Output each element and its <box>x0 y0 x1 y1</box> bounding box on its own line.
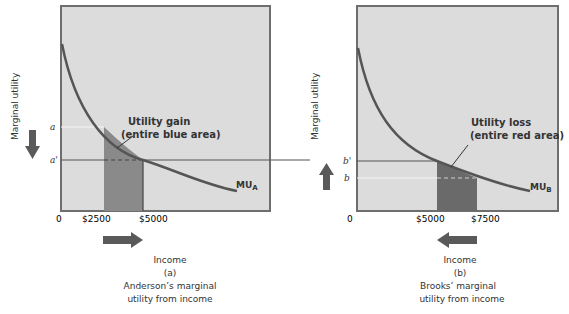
tick-0-a: 0 <box>56 214 62 224</box>
tick-a: a <box>50 122 55 132</box>
arrow-right-icon <box>103 232 143 248</box>
loss-label-2: (entire red area) <box>470 130 564 141</box>
arrow-up-icon <box>319 163 334 190</box>
gain-label-1: Utility gain <box>128 116 190 127</box>
arrow-down-icon <box>25 130 40 159</box>
tick-b: b <box>344 173 350 183</box>
x-axis-label-b: Income <box>443 255 477 265</box>
panel-b: Utility loss (entire red area) MUB b' b … <box>310 6 564 304</box>
caption-b-line1: Brooks’ marginal <box>420 281 496 291</box>
tick-5000-b: $5000 <box>416 214 445 224</box>
x-axis-label-a: Income <box>153 255 187 265</box>
figure: Utility gain (entire blue area) MUA a a'… <box>0 0 569 314</box>
caption-b-line2: utility from income <box>419 294 505 304</box>
panel-label-a: (a) <box>164 268 177 278</box>
loss-label-1: Utility loss <box>471 117 531 128</box>
tick-0-b: 0 <box>347 214 353 224</box>
panel-a: Utility gain (entire blue area) MUA a a'… <box>10 6 310 304</box>
tick-7500: $7500 <box>471 214 500 224</box>
arrow-left-icon <box>437 232 477 248</box>
gain-label-2: (entire blue area) <box>121 129 221 140</box>
tick-2500: $2500 <box>82 214 111 224</box>
tick-b-prime: b' <box>343 156 351 166</box>
y-axis-label-b: Marginal utility <box>310 72 320 140</box>
tick-a-prime: a' <box>50 155 58 165</box>
caption-a-line2: utility from income <box>127 294 213 304</box>
panel-label-b: (b) <box>454 268 467 278</box>
tick-5000-a: $5000 <box>139 214 168 224</box>
caption-a-line1: Anderson’s marginal <box>124 281 217 291</box>
y-axis-label-a: Marginal utility <box>10 72 20 140</box>
